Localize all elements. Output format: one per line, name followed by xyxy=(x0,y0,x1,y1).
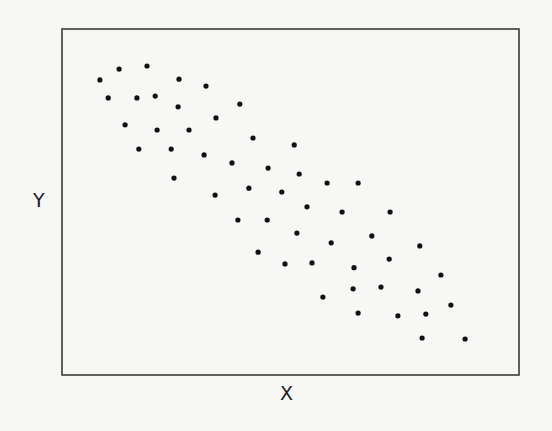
data-point xyxy=(417,243,422,248)
data-point xyxy=(153,94,158,99)
data-point xyxy=(235,217,240,222)
data-point xyxy=(176,104,181,109)
data-point xyxy=(388,209,393,214)
data-point xyxy=(169,147,174,152)
data-point xyxy=(203,84,208,89)
data-point xyxy=(387,257,392,262)
data-point xyxy=(202,152,207,157)
data-point xyxy=(250,135,255,140)
data-point xyxy=(97,77,102,82)
data-point xyxy=(282,261,287,266)
data-point xyxy=(329,240,334,245)
data-point xyxy=(106,95,111,100)
plot-frame xyxy=(62,29,519,375)
data-point xyxy=(136,147,141,152)
data-point xyxy=(237,102,242,107)
data-point xyxy=(356,311,361,316)
data-point xyxy=(420,335,425,340)
data-point xyxy=(340,209,345,214)
data-point xyxy=(448,303,453,308)
data-point xyxy=(294,231,299,236)
data-point xyxy=(463,336,468,341)
data-point xyxy=(266,166,271,171)
data-point xyxy=(186,127,191,132)
data-point xyxy=(155,127,160,132)
data-point xyxy=(176,77,181,82)
data-point xyxy=(378,285,383,290)
data-point xyxy=(356,180,361,185)
data-point xyxy=(144,63,149,68)
data-point xyxy=(325,180,330,185)
data-point xyxy=(297,171,302,176)
data-point xyxy=(279,189,284,194)
data-point xyxy=(123,122,128,127)
data-point xyxy=(304,204,309,209)
data-point xyxy=(213,115,218,120)
data-point xyxy=(246,186,251,191)
data-point xyxy=(265,217,270,222)
data-point xyxy=(415,288,420,293)
data-points xyxy=(97,63,467,341)
data-point xyxy=(309,260,314,265)
x-axis-label: X xyxy=(280,382,293,404)
scatter-plot xyxy=(0,0,552,431)
data-point xyxy=(256,250,261,255)
data-point xyxy=(171,176,176,181)
data-point xyxy=(438,272,443,277)
y-axis-label: Y xyxy=(33,189,45,211)
data-point xyxy=(134,95,139,100)
data-point xyxy=(351,286,356,291)
data-point xyxy=(117,67,122,72)
data-point xyxy=(423,312,428,317)
data-point xyxy=(395,313,400,318)
data-point xyxy=(369,233,374,238)
data-point xyxy=(213,193,218,198)
data-point xyxy=(320,295,325,300)
data-point xyxy=(351,265,356,270)
data-point xyxy=(292,142,297,147)
data-point xyxy=(229,160,234,165)
